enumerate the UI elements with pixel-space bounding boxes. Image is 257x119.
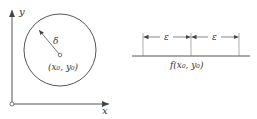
x-axis-label: x [102,105,108,116]
center-point [58,53,62,57]
y-axis-label: y [18,6,25,17]
delta-neighborhood-circle [24,14,96,86]
function-value-label: f(x₀, y₀) [169,60,204,70]
center-label: (x₀, y₀) [48,62,79,72]
epsilon-left-label: ε [164,32,169,42]
neighborhood-diagram: y x δ (x₀, y₀) [10,6,109,116]
diagram-canvas: y x δ (x₀, y₀) ε ε f(x₀, y₀) [0,0,257,119]
radius-label: δ [53,36,58,46]
epsilon-interval-diagram: ε ε f(x₀, y₀) [132,32,250,70]
origin-point [10,102,14,106]
epsilon-right-label: ε [212,32,217,42]
